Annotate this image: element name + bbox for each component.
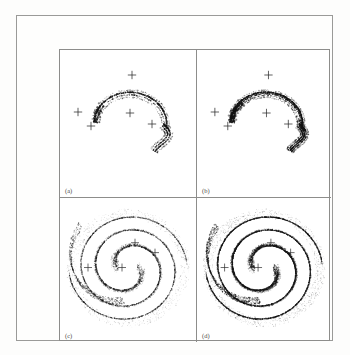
- outer-frame-border: (a) (b) (c) (d): [16, 15, 333, 341]
- cross-marker: [128, 71, 136, 79]
- panel-b: (b): [196, 50, 331, 197]
- panel-grid: (a) (b) (c) (d): [59, 49, 330, 341]
- cross-marker: [126, 109, 134, 117]
- cross-marker: [264, 71, 272, 79]
- panel-b-plot: [197, 50, 331, 197]
- panel-d-label: (d): [202, 333, 210, 340]
- panel-c: (c): [60, 197, 196, 342]
- cross-marker: [287, 249, 295, 257]
- cross-marker: [221, 264, 229, 272]
- cross-marker: [262, 109, 270, 117]
- panel-a-label: (a): [65, 188, 72, 195]
- figure-root: (a) (b) (c) (d): [0, 0, 350, 355]
- cross-marker: [224, 122, 232, 130]
- panel-d: (d): [196, 197, 331, 342]
- panel-a: (a): [60, 50, 196, 197]
- cross-marker: [148, 120, 156, 128]
- panel-a-plot: [60, 50, 196, 197]
- cross-marker: [211, 108, 219, 116]
- cross-marker: [74, 108, 82, 116]
- cross-marker: [151, 249, 159, 257]
- panel-c-label: (c): [65, 333, 72, 340]
- panel-c-plot: [60, 198, 196, 342]
- cross-marker: [118, 264, 126, 272]
- cross-marker: [254, 264, 262, 272]
- panel-d-plot: [197, 198, 331, 342]
- panel-b-label: (b): [202, 188, 210, 195]
- cross-marker: [84, 264, 92, 272]
- cross-marker: [284, 120, 292, 128]
